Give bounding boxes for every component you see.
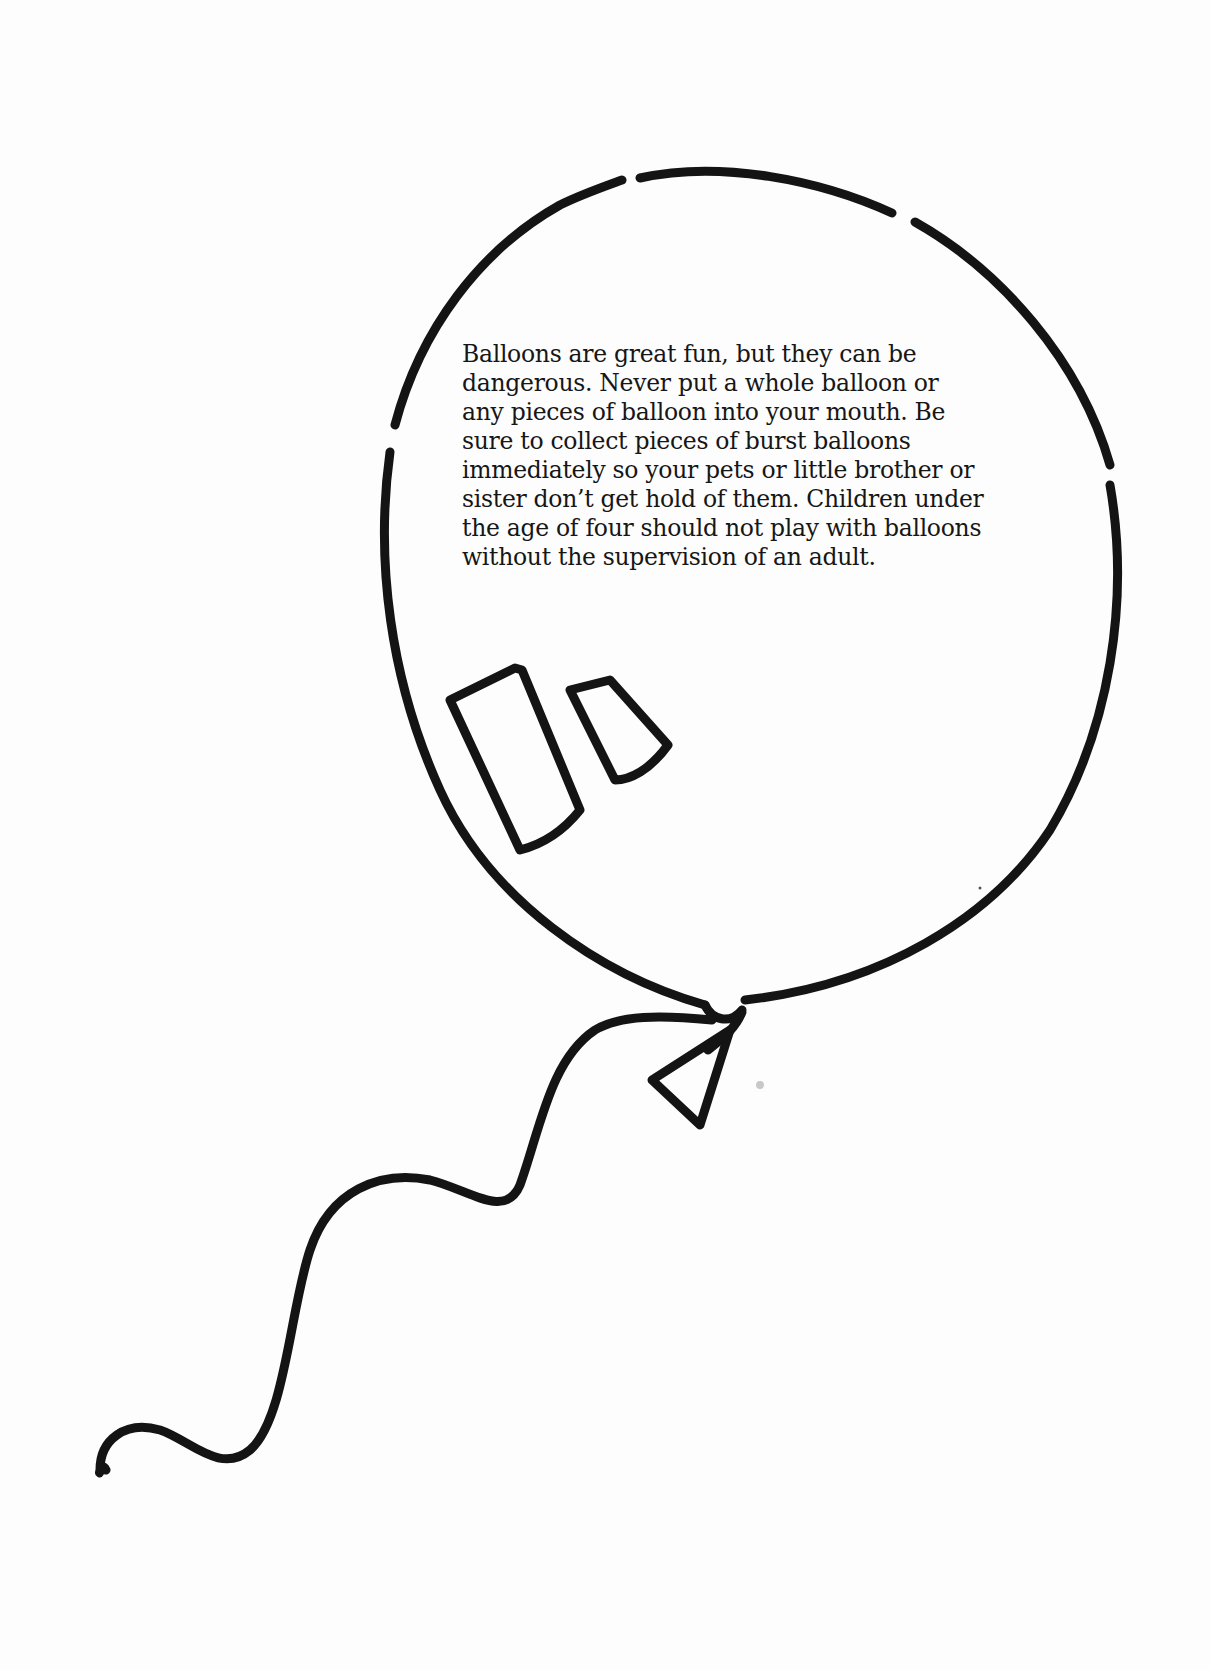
speck: [756, 1081, 764, 1089]
highlight-short: [570, 680, 668, 780]
balloon-outline-top: [640, 171, 892, 213]
message-line: the age of four should not play with bal…: [462, 514, 1082, 543]
balloon-safety-message: Balloons are great fun, but they can be …: [462, 340, 1082, 572]
message-line: any pieces of balloon into your mouth. B…: [462, 398, 1082, 427]
balloon-string: [99, 1017, 712, 1473]
balloon-illustration: [0, 0, 1210, 1670]
message-line: sure to collect pieces of burst balloons: [462, 427, 1082, 456]
speck: [979, 887, 982, 890]
message-line: without the supervision of an adult.: [462, 543, 1082, 572]
message-line: Balloons are great fun, but they can be: [462, 340, 1082, 369]
highlight-long: [450, 668, 580, 850]
message-line: sister don’t get hold of them. Children …: [462, 485, 1082, 514]
message-line: dangerous. Never put a whole balloon or: [462, 369, 1082, 398]
message-line: immediately so your pets or little broth…: [462, 456, 1082, 485]
